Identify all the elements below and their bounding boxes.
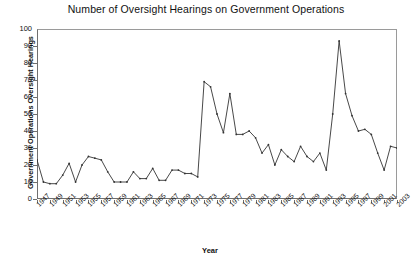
data-point-1967	[165, 179, 167, 181]
data-point-1954	[81, 164, 83, 166]
data-point-1973	[203, 81, 205, 83]
data-point-1992	[325, 169, 327, 171]
data-point-1956	[94, 157, 96, 159]
data-point-1991	[319, 152, 321, 154]
data-point-2001	[383, 169, 385, 171]
data-point-1979	[242, 134, 244, 136]
data-point-1972	[197, 176, 199, 178]
data-point-1984	[274, 164, 276, 166]
data-point-1948	[43, 181, 45, 183]
data-point-1966	[158, 179, 160, 181]
data-point-1949	[49, 183, 51, 185]
data-point-1977	[229, 93, 231, 95]
data-point-1996	[351, 115, 353, 117]
data-point-2000	[377, 152, 379, 154]
data-point-1988	[300, 145, 302, 147]
data-point-1962	[133, 171, 135, 173]
line-series	[37, 29, 397, 199]
data-point-1963	[139, 178, 141, 180]
x-axis-title: Year	[180, 246, 240, 255]
y-axis-title: Government Operations Oversight Hearings	[26, 29, 35, 197]
data-point-1997	[358, 130, 360, 132]
chart-figure: Number of Oversight Hearings on Governme…	[0, 0, 412, 265]
data-point-1983	[268, 144, 270, 146]
data-point-1994	[338, 40, 340, 42]
chart-title: Number of Oversight Hearings on Governme…	[0, 3, 412, 15]
data-point-1982	[261, 152, 263, 154]
data-point-1958	[107, 171, 109, 173]
data-point-1981	[255, 137, 257, 139]
data-point-1952	[68, 162, 70, 164]
data-point-1976	[223, 132, 225, 134]
data-point-1960	[120, 181, 122, 183]
data-point-1987	[293, 161, 295, 163]
data-point-1971	[190, 173, 192, 175]
data-point-1961	[126, 181, 128, 183]
data-point-1957	[100, 159, 102, 161]
data-point-1968	[171, 169, 173, 171]
data-point-1953	[75, 181, 77, 183]
data-point-1955	[88, 156, 90, 158]
data-point-1964	[145, 178, 147, 180]
data-point-1959	[113, 181, 115, 183]
data-point-1969	[178, 169, 180, 171]
data-point-1985	[280, 149, 282, 151]
data-point-2002	[390, 145, 392, 147]
data-point-1970	[184, 173, 186, 175]
data-point-1951	[62, 174, 64, 176]
data-point-1980	[248, 130, 250, 132]
data-point-1990	[313, 161, 315, 163]
series-polyline	[37, 41, 397, 184]
data-point-1989	[306, 156, 308, 158]
data-point-1978	[235, 134, 237, 136]
data-point-1999	[370, 134, 372, 136]
x-tick-label-2003: 2003	[395, 192, 411, 208]
data-point-1993	[332, 113, 334, 115]
data-point-1950	[55, 183, 57, 185]
data-point-1965	[152, 168, 154, 170]
data-point-1947	[37, 159, 38, 161]
data-point-1975	[216, 113, 218, 115]
data-point-1986	[287, 156, 289, 158]
data-point-1995	[345, 93, 347, 95]
data-point-1998	[364, 128, 366, 130]
data-point-1974	[210, 86, 212, 88]
